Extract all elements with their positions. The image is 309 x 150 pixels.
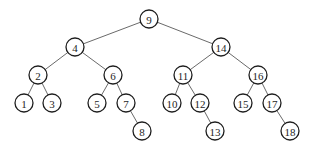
tree-node-11: 11	[174, 66, 192, 84]
tree-canvas: 941426111613571012151781318	[0, 0, 309, 150]
nodes-layer: 941426111613571012151781318	[15, 10, 299, 140]
node-label: 17	[267, 98, 279, 110]
node-label: 1	[21, 98, 27, 110]
node-label: 9	[146, 14, 152, 26]
tree-node-17: 17	[263, 94, 281, 112]
node-label: 7	[123, 98, 129, 110]
node-label: 13	[210, 126, 222, 138]
node-label: 3	[49, 98, 55, 110]
tree-node-6: 6	[104, 66, 122, 84]
node-label: 4	[72, 42, 78, 54]
tree-node-9: 9	[140, 10, 158, 28]
node-label: 16	[253, 70, 265, 82]
tree-node-5: 5	[88, 94, 106, 112]
node-label: 14	[216, 42, 228, 54]
node-label: 15	[238, 98, 250, 110]
node-label: 5	[94, 98, 100, 110]
edge-9-14	[149, 19, 221, 47]
tree-node-14: 14	[212, 38, 230, 56]
tree-node-15: 15	[234, 94, 252, 112]
node-label: 18	[285, 126, 297, 138]
tree-diagram: 941426111613571012151781318	[0, 0, 309, 150]
node-label: 10	[167, 98, 179, 110]
node-label: 2	[35, 70, 41, 82]
tree-node-18: 18	[281, 122, 299, 140]
tree-node-4: 4	[66, 38, 84, 56]
node-label: 11	[178, 70, 189, 82]
tree-node-16: 16	[249, 66, 267, 84]
tree-node-13: 13	[206, 122, 224, 140]
tree-node-12: 12	[191, 94, 209, 112]
tree-node-7: 7	[117, 94, 135, 112]
edge-9-4	[75, 19, 149, 47]
node-label: 6	[110, 70, 116, 82]
tree-node-8: 8	[133, 122, 151, 140]
tree-node-2: 2	[29, 66, 47, 84]
tree-node-1: 1	[15, 94, 33, 112]
tree-node-3: 3	[43, 94, 61, 112]
tree-node-10: 10	[163, 94, 181, 112]
node-label: 8	[139, 126, 145, 138]
node-label: 12	[195, 98, 206, 110]
